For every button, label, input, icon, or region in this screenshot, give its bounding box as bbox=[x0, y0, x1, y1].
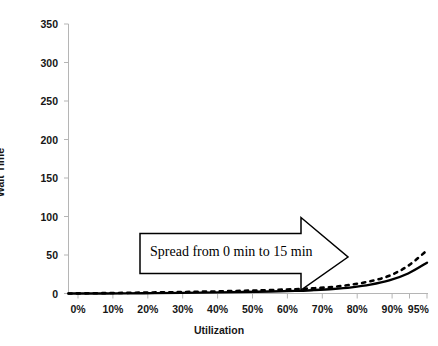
x-tick-label-0: 0% bbox=[70, 303, 85, 315]
chart-container: 350 300 250 200 150 100 50 0 0% 10% 20% … bbox=[0, 0, 438, 346]
spread-callout-label: Spread from 0 min to 15 min bbox=[150, 245, 313, 259]
y-tick-label-100: 100 bbox=[18, 211, 58, 223]
x-tick-label-60: 60% bbox=[277, 303, 298, 315]
y-tick-label-300: 300 bbox=[18, 57, 58, 69]
chart-canvas bbox=[0, 0, 438, 346]
x-tick-label-70: 70% bbox=[312, 303, 333, 315]
x-tick-label-10: 10% bbox=[102, 303, 123, 315]
x-tick-label-30: 30% bbox=[172, 303, 193, 315]
y-tick-label-150: 150 bbox=[18, 172, 58, 184]
x-tick-label-50: 50% bbox=[242, 303, 263, 315]
y-tick-label-350: 350 bbox=[18, 18, 58, 30]
y-axis-title: Wait Time bbox=[0, 148, 6, 197]
x-axis-title: Utilization bbox=[194, 324, 244, 336]
x-tick-label-95: 95% bbox=[408, 303, 429, 315]
y-tick-label-250: 250 bbox=[18, 95, 58, 107]
y-tick-label-200: 200 bbox=[18, 134, 58, 146]
y-tick-label-0: 0 bbox=[18, 288, 58, 300]
x-tick-label-80: 80% bbox=[347, 303, 368, 315]
x-tick-label-90: 90% bbox=[382, 303, 403, 315]
x-tick-label-20: 20% bbox=[137, 303, 158, 315]
x-tick-label-40: 40% bbox=[207, 303, 228, 315]
y-tick-label-50: 50 bbox=[18, 249, 58, 261]
y-axis-ticks bbox=[64, 24, 69, 294]
